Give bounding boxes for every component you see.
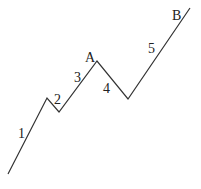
- elliott-wave-diagram: 12345AB: [0, 0, 201, 189]
- wave-line: [8, 8, 190, 174]
- wave-label-3: 3: [74, 70, 81, 85]
- wave-label-5: 5: [148, 41, 155, 56]
- point-label-B: B: [172, 8, 181, 23]
- wave-chart: 12345AB: [0, 0, 201, 189]
- point-label-A: A: [85, 50, 96, 65]
- wave-label-2: 2: [54, 92, 61, 107]
- wave-label-1: 1: [18, 126, 25, 141]
- wave-label-4: 4: [103, 81, 110, 96]
